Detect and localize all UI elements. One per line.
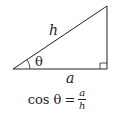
formula-equals: = [64,92,75,107]
right-angle-marker [100,63,107,69]
cosine-formula: cos θ = a h [0,88,114,111]
angle-label: θ [35,55,43,68]
hypotenuse-label: h [49,23,58,37]
fraction-denominator: h [79,101,85,111]
adjacent-label: a [66,71,74,85]
angle-arc [27,60,30,70]
fraction-numerator: a [79,88,85,98]
fraction: a h [78,88,86,111]
formula-lhs: cos θ [28,92,62,107]
